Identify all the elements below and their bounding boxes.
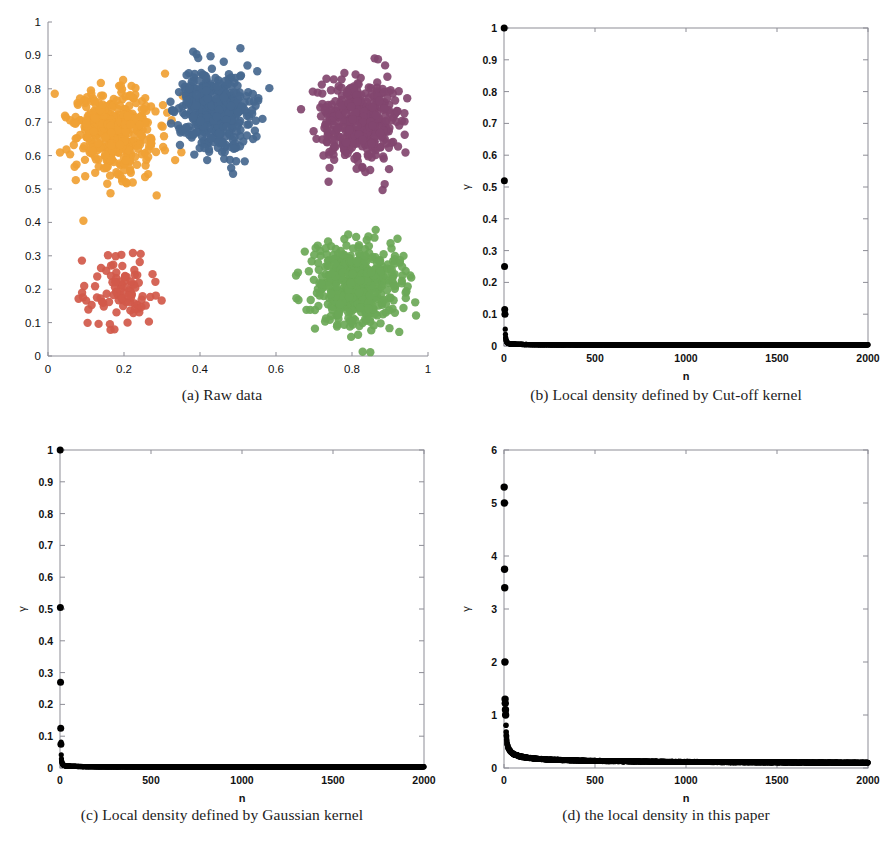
gamma-decay-plot-proposed: 05001000150020000123456nγ: [444, 430, 888, 806]
y-tick-label: 0.5: [482, 181, 497, 193]
x-tick-label: 1500: [765, 774, 789, 786]
gamma-data-points: [500, 483, 870, 765]
x-tick-label: 2000: [856, 774, 880, 786]
y-tick-label: 0.4: [25, 216, 42, 228]
y-tick-label: 1: [491, 709, 497, 721]
y-tick-label: 1: [491, 22, 497, 34]
gamma-decay-plot-gaussian: 050010001500200000.10.20.30.40.50.60.70.…: [0, 430, 444, 806]
panel-c-gaussian-kernel: 050010001500200000.10.20.30.40.50.60.70.…: [0, 430, 444, 862]
x-tick-label: 1500: [765, 352, 789, 364]
x-tick-label: 0: [501, 774, 507, 786]
y-tick-label: 1: [47, 444, 53, 456]
x-tick-label: 0: [57, 774, 63, 786]
y-tick-label: 0.4: [482, 213, 497, 225]
y-tick-label: 0: [491, 762, 497, 774]
x-axis-title: n: [683, 370, 690, 382]
x-tick-label: 1000: [674, 352, 698, 364]
y-tick-label: 0.4: [38, 635, 53, 647]
x-tick-label: 1000: [674, 774, 698, 786]
scatter-plot-raw-data: 00.20.40.60.8100.10.20.30.40.50.60.70.80…: [0, 0, 444, 386]
y-axis-title: γ: [16, 606, 28, 612]
y-tick-label: 0.2: [25, 283, 41, 295]
panel-b-cutoff-kernel: 050010001500200000.10.20.30.40.50.60.70.…: [444, 0, 888, 430]
x-tick-label: 0.4: [192, 363, 209, 375]
x-tick-label: 500: [142, 774, 160, 786]
y-tick-label: 0.6: [25, 150, 41, 162]
gamma-data-points: [57, 447, 427, 770]
y-tick-label: 4: [491, 550, 497, 562]
x-tick-label: 2000: [856, 352, 880, 364]
scatter-series-cluster-orange: [51, 69, 187, 225]
x-axis-title: n: [239, 792, 246, 804]
y-tick-label: 1: [35, 16, 41, 28]
y-tick-label: 0.9: [38, 476, 53, 488]
scatter-series-cluster-red: [74, 249, 165, 334]
x-tick-label: 500: [586, 774, 604, 786]
y-axis-title: γ: [460, 606, 472, 612]
y-tick-label: 0.1: [482, 308, 497, 320]
y-tick-label: 0.3: [25, 250, 41, 262]
y-tick-label: 0.8: [38, 508, 53, 520]
y-tick-label: 0.7: [38, 539, 53, 551]
y-tick-label: 0.7: [25, 116, 41, 128]
x-axis-title: n: [683, 792, 690, 804]
y-tick-label: 0.9: [482, 54, 497, 66]
x-tick-label: 1: [425, 363, 431, 375]
y-tick-label: 0.2: [482, 276, 497, 288]
y-tick-label: 0.6: [38, 571, 53, 583]
y-tick-label: 0: [47, 762, 53, 774]
y-axis-title: γ: [460, 184, 472, 190]
y-tick-label: 0.7: [482, 117, 497, 129]
y-tick-label: 0.3: [38, 667, 53, 679]
figure-grid: 00.20.40.60.8100.10.20.30.40.50.60.70.80…: [0, 0, 888, 862]
y-tick-label: 6: [491, 444, 497, 456]
y-tick-label: 0.8: [25, 83, 41, 95]
panel-a-raw-data: 00.20.40.60.8100.10.20.30.40.50.60.70.80…: [0, 0, 444, 430]
y-tick-label: 0.3: [482, 245, 497, 257]
y-tick-label: 0.1: [38, 730, 53, 742]
x-tick-label: 2000: [412, 774, 436, 786]
scatter-series-cluster-purple: [297, 54, 412, 194]
y-tick-label: 0: [491, 340, 497, 352]
panel-b-caption: (b) Local density defined by Cut-off ker…: [444, 386, 888, 404]
x-tick-label: 0: [45, 363, 51, 375]
y-tick-label: 0.6: [482, 149, 497, 161]
scatter-series-cluster-blue: [166, 44, 273, 178]
panel-d-caption: (d) the local density in this paper: [444, 806, 888, 824]
y-tick-label: 0.1: [25, 317, 41, 329]
y-tick-label: 3: [491, 603, 497, 615]
panel-c-caption: (c) Local density defined by Gaussian ke…: [0, 806, 444, 824]
x-tick-label: 0: [501, 352, 507, 364]
gamma-decay-plot-cutoff: 050010001500200000.10.20.30.40.50.60.70.…: [444, 0, 888, 386]
panel-a-caption: (a) Raw data: [0, 386, 444, 404]
x-tick-label: 0.2: [116, 363, 132, 375]
y-tick-label: 5: [491, 497, 497, 509]
y-tick-label: 0.9: [25, 49, 41, 61]
panel-d-this-paper: 05001000150020000123456nγ (d) the local …: [444, 430, 888, 862]
scatter-series-cluster-green: [292, 226, 420, 357]
y-tick-label: 0.8: [482, 86, 497, 98]
y-tick-label: 0: [35, 350, 41, 362]
x-tick-label: 500: [586, 352, 604, 364]
x-tick-label: 1500: [321, 774, 345, 786]
x-tick-label: 1000: [230, 774, 254, 786]
y-tick-label: 0.5: [38, 603, 53, 615]
y-tick-label: 2: [491, 656, 497, 668]
gamma-data-points: [501, 25, 871, 348]
y-tick-label: 0.5: [25, 183, 41, 195]
x-tick-label: 0.8: [344, 363, 360, 375]
x-tick-label: 0.6: [268, 363, 284, 375]
y-tick-label: 0.2: [38, 698, 53, 710]
